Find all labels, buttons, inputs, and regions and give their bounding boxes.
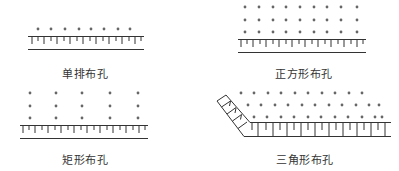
single-row-bench	[28, 37, 144, 50]
label-triangle: 三角形布孔	[276, 151, 334, 167]
rectangle-holes	[29, 92, 140, 120]
label-square: 正方形布孔	[275, 65, 333, 81]
square-bench	[238, 40, 366, 53]
single-row-holes	[37, 28, 132, 31]
panel-triangle	[217, 92, 391, 137]
triangle-holes	[240, 92, 384, 119]
label-rectangle: 矩形布孔	[62, 151, 108, 167]
square-holes	[244, 6, 359, 34]
panel-square	[238, 6, 366, 53]
triangle-bench	[217, 95, 391, 137]
blasthole-layout-diagram	[0, 0, 399, 171]
rectangle-bench	[20, 126, 148, 139]
panel-single-row	[28, 28, 144, 50]
panel-rectangle	[20, 92, 148, 139]
label-single-row: 单排布孔	[62, 65, 108, 81]
